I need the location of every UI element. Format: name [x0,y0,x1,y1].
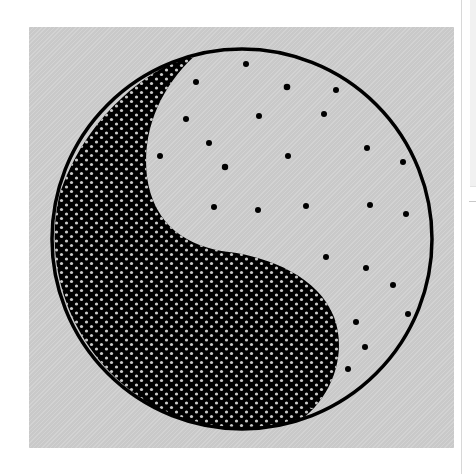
yin-yang-image [29,27,454,448]
panel-divider [461,0,462,474]
yin-yang-illustration [29,27,454,448]
side-panel-separator [469,201,476,202]
side-panel [470,0,476,187]
